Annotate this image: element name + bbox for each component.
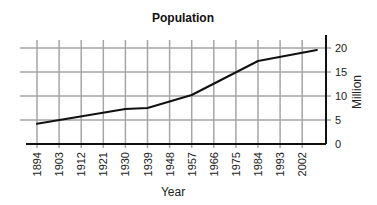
x-tick-label: 1912 [75,152,87,176]
x-axis-tick-labels: 1894190319121921193019391948195719661975… [31,152,308,176]
chart-title: Population [152,11,214,25]
x-tick-label: 1939 [142,152,154,176]
y-tick-label: 15 [335,66,347,78]
y-axis-tick-labels: 05101520 [335,42,347,150]
x-tick-label: 1948 [164,152,176,176]
x-tick-label: 1975 [230,152,242,176]
x-tick-label: 1930 [119,152,131,176]
population-line-chart: Population 18941903191219211930193919481… [0,0,377,205]
x-tick-label: 1993 [274,152,286,176]
y-tick-label: 5 [335,114,341,126]
axes [26,35,326,144]
x-axis-label: Year [161,185,185,199]
x-tick-label: 1903 [53,152,65,176]
x-tick-label: 1966 [208,152,220,176]
population-series-line [37,50,317,124]
y-tick-label: 10 [335,90,347,102]
x-tick-label: 1984 [252,152,264,176]
x-tick-label: 1921 [97,152,109,176]
y-axis-label: Million [350,75,364,109]
x-tick-label: 1894 [31,152,43,176]
x-tick-label: 2002 [296,152,308,176]
y-tick-label: 0 [335,138,341,150]
y-tick-label: 20 [335,42,347,54]
x-tick-label: 1957 [186,152,198,176]
